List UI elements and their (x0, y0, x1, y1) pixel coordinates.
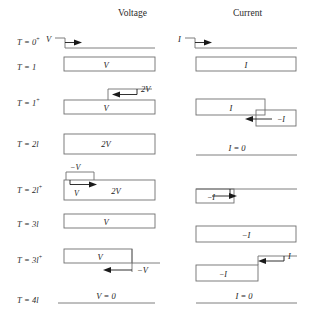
voltage-arrow-t2lp-head (89, 182, 97, 188)
current-box-label-t1p: I (229, 103, 234, 113)
voltage-row-t2l: 2V (64, 134, 155, 154)
voltage-arrow-t3lp-head (103, 267, 111, 273)
current-row-t3l: −I (196, 226, 296, 242)
voltage-box-label-t2l: 2V (101, 139, 112, 149)
voltage-box-t1p (64, 100, 155, 114)
current-box-label-t1p-reflected: −I (277, 115, 285, 124)
voltage-box-label-t2lp: 2V (111, 186, 122, 196)
voltage-arrow-t1p-head (112, 92, 120, 98)
current-box-label-t2lp: −I (207, 193, 215, 202)
current-box-label-t1: I (244, 60, 249, 70)
current-label-t4l: I = 0 (234, 291, 253, 301)
voltage-box-label-t1p: V (103, 103, 110, 113)
current-row-t1p: I −I (196, 99, 296, 126)
current-row-t2lp: −I (196, 189, 297, 203)
voltage-step-t0p-path (55, 38, 155, 48)
voltage-step-t2lp-path (66, 172, 94, 180)
current-box-label-t3l: −I (242, 230, 252, 240)
current-row-t4l: I = 0 (196, 291, 297, 303)
voltage-row-t1: V (64, 57, 155, 71)
current-step-t0p-path (185, 38, 297, 48)
current-label-t2l: I = 0 (227, 143, 246, 153)
current-label-t0p: I (177, 34, 182, 44)
current-row-t1: I (196, 57, 296, 71)
voltage-step-label-t2lp-top: −V (70, 163, 81, 172)
voltage-box-label-t3lp: V (97, 252, 104, 262)
voltage-label-t4l: V = 0 (96, 291, 116, 301)
current-arrow-t0p-head (204, 40, 212, 46)
voltage-box-label-t3l: V (103, 217, 110, 227)
current-box-label-t3lp: −I (219, 270, 227, 279)
current-arrow-t1p-head (245, 116, 253, 122)
current-row-t3lp: −I I (196, 251, 297, 281)
voltage-row-t4l: V = 0 (58, 291, 155, 303)
voltage-row-t3l: V (64, 214, 155, 228)
figure-canvas: Voltage Current T = 0+ T = 1 T = 1+ T = … (0, 0, 314, 321)
voltage-row-t2lp: 2V −V V (64, 163, 155, 200)
waveform-svg: V V V 2V 2V 2V − (0, 0, 314, 321)
current-row-t2l: I = 0 (196, 143, 297, 155)
voltage-step-label-t2lp-bottom: V (74, 189, 80, 198)
voltage-row-t1p: V 2V (64, 84, 155, 114)
voltage-wave-label-t3lp: −V (137, 265, 150, 275)
voltage-box-t1 (64, 57, 155, 71)
current-arrow-t3lp-head (258, 258, 266, 264)
voltage-box-t3l (64, 214, 155, 228)
voltage-arrow-t0p-head (74, 40, 82, 46)
voltage-row-t0p: V (46, 34, 155, 49)
voltage-row-t3lp: V −V (64, 249, 160, 275)
voltage-label-t0p: V (46, 34, 53, 44)
current-row-t0p: I (177, 34, 297, 49)
voltage-box-label-t1: V (103, 60, 110, 70)
